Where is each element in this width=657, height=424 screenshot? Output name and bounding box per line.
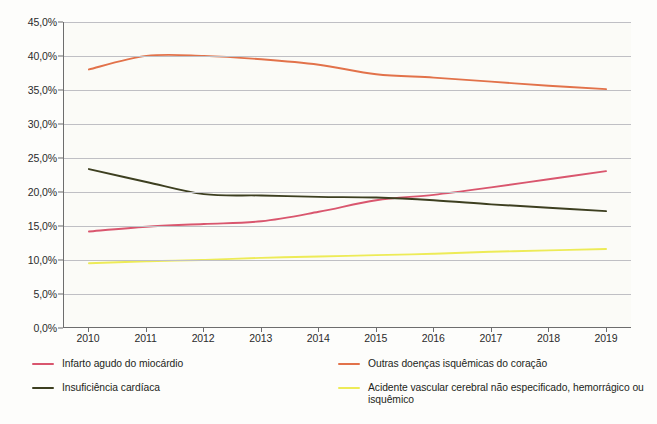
x-axis: 2010201120122013201420152016201720182019 (0, 332, 657, 352)
series-line (89, 171, 606, 231)
gridline (64, 158, 631, 159)
gridline (64, 192, 631, 193)
legend-swatch-icon (338, 387, 360, 389)
x-axis-tick-mark (88, 328, 89, 332)
x-axis-tick-mark (548, 328, 549, 332)
gridline (64, 56, 631, 57)
y-axis-tick-label: 25,0% (0, 152, 57, 164)
gridline (64, 22, 631, 23)
legend-item[interactable]: Acidente vascular cerebral não especific… (338, 382, 650, 407)
y-axis-tick-mark (58, 158, 63, 159)
legend-item-label: Infarto agudo do miocárdio (62, 358, 183, 371)
legend-item-label: Insuficiência cardíaca (62, 382, 160, 395)
y-axis-tick-mark (58, 192, 63, 193)
y-axis-tick-mark (58, 294, 63, 295)
x-axis-tick-mark (491, 328, 492, 332)
y-axis-tick-mark (58, 22, 63, 23)
x-axis-tick-label: 2018 (537, 332, 560, 344)
plot-area (63, 22, 631, 328)
x-axis-tick-label: 2017 (479, 332, 502, 344)
x-axis-tick-label: 2012 (192, 332, 215, 344)
y-axis-tick-label: 45,0% (0, 16, 57, 28)
gridline (64, 226, 631, 227)
legend-item-label: Outras doenças isquêmicas do coração (368, 358, 547, 371)
legend-swatch-icon (32, 363, 54, 365)
legend-swatch-icon (338, 363, 360, 365)
x-axis-tick-mark (433, 328, 434, 332)
y-axis-tick-mark (58, 56, 63, 57)
chart-legend: Infarto agudo do miocárdio Insuficiência… (0, 358, 657, 418)
y-axis-tick-label: 15,0% (0, 220, 57, 232)
y-axis-tick-label: 5,0% (0, 288, 57, 300)
x-axis-tick-mark (318, 328, 319, 332)
gridline (64, 90, 631, 91)
x-axis-tick-label: 2011 (134, 332, 156, 344)
legend-item[interactable]: Insuficiência cardíaca (32, 382, 342, 395)
x-axis-tick-label: 2014 (307, 332, 330, 344)
y-axis-tick-mark (58, 260, 63, 261)
x-axis-tick-label: 2010 (77, 332, 100, 344)
y-axis-tick-label: 20,0% (0, 186, 57, 198)
legend-column-left: Infarto agudo do miocárdio Insuficiência… (32, 358, 342, 405)
gridline (64, 294, 631, 295)
y-axis-tick-label: 40,0% (0, 50, 57, 62)
x-axis-tick-mark (146, 328, 147, 332)
y-axis-tick-label: 10,0% (0, 254, 57, 266)
x-axis-tick-mark (376, 328, 377, 332)
legend-column-right: Outras doenças isquêmicas do coração Aci… (338, 358, 650, 418)
series-line (89, 55, 606, 89)
legend-item[interactable]: Outras doenças isquêmicas do coração (338, 358, 650, 371)
gridline (64, 260, 631, 261)
x-axis-tick-label: 2015 (364, 332, 387, 344)
y-axis-tick-mark (58, 328, 63, 329)
legend-swatch-icon (32, 387, 54, 389)
x-axis-tick-mark (261, 328, 262, 332)
x-axis-tick-mark (203, 328, 204, 332)
y-axis-tick-mark (58, 90, 63, 91)
series-line (89, 249, 606, 263)
line-chart-svg (64, 22, 631, 327)
x-axis-tick-label: 2019 (595, 332, 618, 344)
legend-item-label: Acidente vascular cerebral não especific… (368, 382, 650, 407)
x-axis-tick-label: 2016 (422, 332, 445, 344)
x-axis-tick-mark (606, 328, 607, 332)
chart-page: 0,0%5,0%10,0%15,0%20,0%25,0%30,0%35,0%40… (0, 0, 657, 424)
y-axis-tick-label: 35,0% (0, 84, 57, 96)
series-line (89, 169, 606, 211)
gridline (64, 124, 631, 125)
x-axis-tick-label: 2013 (249, 332, 272, 344)
y-axis-tick-mark (58, 226, 63, 227)
y-axis-tick-mark (58, 124, 63, 125)
legend-item[interactable]: Infarto agudo do miocárdio (32, 358, 342, 371)
y-axis-tick-label: 30,0% (0, 118, 57, 130)
